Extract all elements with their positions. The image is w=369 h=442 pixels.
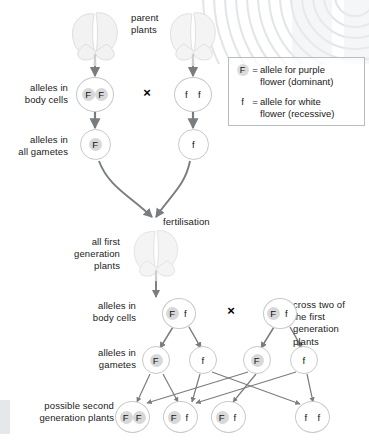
allele-f: f — [179, 308, 192, 319]
allele-f: f — [300, 412, 313, 423]
allele-f: f — [193, 89, 206, 100]
label-possible-second-generation-plants: possible second generation plants — [6, 400, 114, 424]
allele-f: f — [229, 412, 242, 423]
legend-equals-recessive: = — [250, 96, 260, 108]
allele-circle-f1-gamete-f-2: f — [290, 346, 318, 374]
allele-circle-f2-ff: ff — [295, 401, 330, 433]
allele-circle-f2-FF: FF — [115, 401, 150, 433]
allele-f: f — [197, 355, 210, 366]
allele-circle-f2-Ff-1: Ff — [163, 401, 198, 433]
legend-row-dominant: F = allele for purple flower (dominant) — [229, 58, 364, 88]
parent-plant-1-flower — [64, 8, 128, 66]
allele-F: F — [216, 411, 229, 424]
label-parent-plants: parent plants — [131, 12, 193, 36]
cross-symbol-parents: × — [138, 85, 156, 100]
allele-F: F — [82, 88, 95, 101]
legend-text-recessive: allele for white flower (recessive) — [260, 96, 334, 120]
allele-f: f — [280, 308, 293, 319]
allele-circle-f1-gamete-F-1: F — [142, 346, 170, 374]
allele-F: F — [150, 354, 163, 367]
allele-circle-parent-gamete-F: F — [80, 129, 111, 160]
allele-F: F — [166, 307, 179, 320]
allele-f: f — [180, 89, 193, 100]
cross-symbol-f1: × — [222, 303, 240, 318]
allele-F: F — [133, 411, 146, 424]
legend-box: F = allele for purple flower (dominant) … — [228, 57, 365, 126]
allele-circle-parent-body-ff: ff — [174, 77, 212, 112]
allele-circle-f2-Ff-2: Ff — [211, 401, 246, 433]
allele-F: F — [120, 411, 133, 424]
allele-circle-parent-gamete-f: f — [178, 129, 209, 160]
label-cross-two-of-first-generation: cross two of the first generation plants — [293, 299, 369, 348]
label-fertilisation: fertilisation — [163, 216, 243, 228]
allele-F: F — [168, 411, 181, 424]
legend-row-recessive: f = allele for white flower (recessive) — [229, 88, 364, 120]
allele-F: F — [89, 138, 102, 151]
label-alleles-in-gametes-f1: alleles in gametes — [62, 347, 136, 371]
genetics-diagram: parent plants alleles in body cells alle… — [0, 0, 369, 442]
legend-symbol-f: f — [235, 96, 250, 108]
allele-f: f — [298, 355, 311, 366]
allele-circle-f1-gamete-f-1: f — [189, 346, 217, 374]
allele-circle-f1-body-Ff-left: Ff — [162, 298, 196, 329]
label-all-first-generation-plants: all first generation plants — [48, 236, 120, 273]
allele-F: F — [251, 354, 264, 367]
allele-f: f — [187, 139, 200, 150]
allele-f: f — [181, 412, 194, 423]
allele-f: f — [313, 412, 326, 423]
label-alleles-in-body-cells-parents: alleles in body cells — [2, 82, 68, 106]
legend-symbol-F: F — [235, 64, 250, 76]
legend-equals-dominant: = — [250, 64, 260, 76]
allele-circle-f1-gamete-F-2: F — [243, 346, 271, 374]
allele-circle-parent-body-FF: FF — [76, 77, 114, 112]
allele-F: F — [267, 307, 280, 320]
label-alleles-in-all-gametes: alleles in all gametes — [2, 134, 68, 158]
allele-F: F — [95, 88, 108, 101]
allele-circle-f1-body-Ff-right: Ff — [263, 298, 297, 329]
legend-text-dominant: allele for purple flower (dominant) — [260, 64, 333, 88]
label-alleles-in-body-cells-f1: alleles in body cells — [66, 300, 136, 324]
first-generation-plant-flower — [126, 226, 188, 282]
